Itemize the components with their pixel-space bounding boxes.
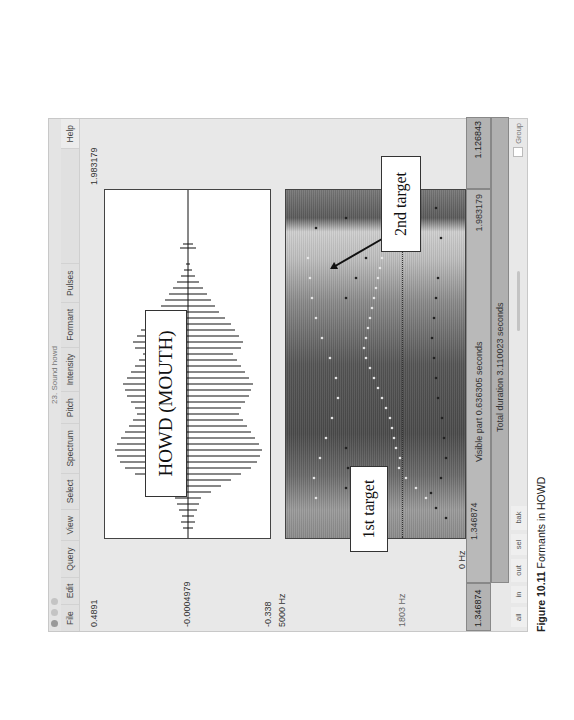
- menu-help[interactable]: Help: [61, 119, 79, 149]
- zoom-selection-button[interactable]: sel: [511, 534, 527, 556]
- menu-select[interactable]: Select: [61, 473, 79, 510]
- group-label: Group: [514, 123, 523, 144]
- menu-spectrum[interactable]: Spectrum: [61, 423, 79, 472]
- menu-view[interactable]: View: [61, 509, 79, 540]
- menu-pitch[interactable]: Pitch: [61, 391, 79, 423]
- first-target-annotation: 1st target: [350, 466, 388, 552]
- praat-sound-window: 23. Sound howd File Edit Query View Sele…: [48, 118, 528, 632]
- waveform-icon: [105, 189, 271, 538]
- figure-number: Figure 10.11: [535, 571, 547, 632]
- rotated-figure: 23. Sound howd File Edit Query View Sele…: [48, 118, 548, 632]
- second-target-annotation: 2nd target: [381, 156, 421, 252]
- visible-end-time: 1.983179: [474, 194, 484, 232]
- menu-query[interactable]: Query: [61, 540, 79, 576]
- end-time-label: 1.983179: [89, 147, 99, 185]
- menu-pulses[interactable]: Pulses: [61, 263, 79, 302]
- zoom-in-button[interactable]: in: [511, 586, 527, 604]
- zoom-out-button[interactable]: out: [511, 559, 527, 581]
- menu-intensity[interactable]: Intensity: [61, 347, 79, 392]
- visible-part-label: Visible part 0.636305 seconds: [474, 342, 484, 462]
- visible-part-bar[interactable]: 1.346874 Visible part 0.636305 seconds 1…: [466, 189, 491, 583]
- total-duration-label: Total duration 3.110023 seconds: [495, 303, 505, 432]
- waveform-mid-label: -0.0004979: [182, 581, 192, 627]
- group-toggle[interactable]: Group: [513, 123, 523, 157]
- group-checkbox[interactable]: [513, 147, 523, 157]
- zoom-all-button[interactable]: all: [511, 607, 527, 627]
- window-title: 23. Sound howd: [49, 119, 61, 631]
- zoom-button-row: all in out sel bak: [511, 119, 527, 631]
- figure-caption-text: Formants in HOWD: [535, 477, 547, 572]
- menu-file[interactable]: File: [61, 604, 79, 631]
- waveform-min-label: -0.338: [263, 601, 273, 627]
- figure-caption: Figure 10.11 Formants in HOWD: [535, 477, 547, 632]
- spectrogram-max-freq-label: 5000 Hz: [277, 593, 287, 627]
- menu-bar: File Edit Query View Select Spectrum Pit…: [61, 119, 80, 631]
- waveform-panel[interactable]: [104, 189, 271, 539]
- total-duration-bar[interactable]: Total duration 3.110023 seconds: [491, 117, 509, 583]
- zoom-back-button[interactable]: bak: [511, 506, 527, 530]
- horizontal-scrollbar[interactable]: [517, 271, 520, 331]
- howd-title-annotation: HOWD (MOUTH): [145, 310, 187, 497]
- waveform-max-label: 0.4891: [89, 599, 99, 627]
- window-start-time[interactable]: 1.346874: [466, 583, 491, 631]
- title-bar: 23. Sound howd: [49, 119, 61, 631]
- menu-edit[interactable]: Edit: [61, 577, 79, 605]
- menu-formant[interactable]: Formant: [61, 302, 79, 347]
- visible-start-time: 1.346874: [469, 502, 479, 540]
- spectrogram-cursor-freq-label: 1803 Hz: [397, 593, 407, 627]
- window-end-time[interactable]: 1.126843: [466, 117, 491, 189]
